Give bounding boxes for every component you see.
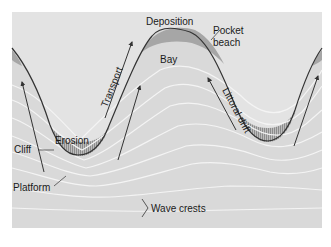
platform-label: Platform [13, 182, 50, 193]
deposition-label: Deposition [146, 16, 193, 27]
pocket-beach-label: Pocket [213, 25, 244, 36]
erosion-label: Erosion [55, 135, 89, 146]
coastal-processes-diagram: Deposition Pocket beach Bay Transport Li… [0, 0, 331, 247]
cliff-label: Cliff [14, 144, 31, 155]
wave-crests-label: Wave crests [151, 203, 206, 214]
pocket-beach-label-2: beach [213, 37, 240, 48]
bay-label: Bay [160, 54, 177, 65]
